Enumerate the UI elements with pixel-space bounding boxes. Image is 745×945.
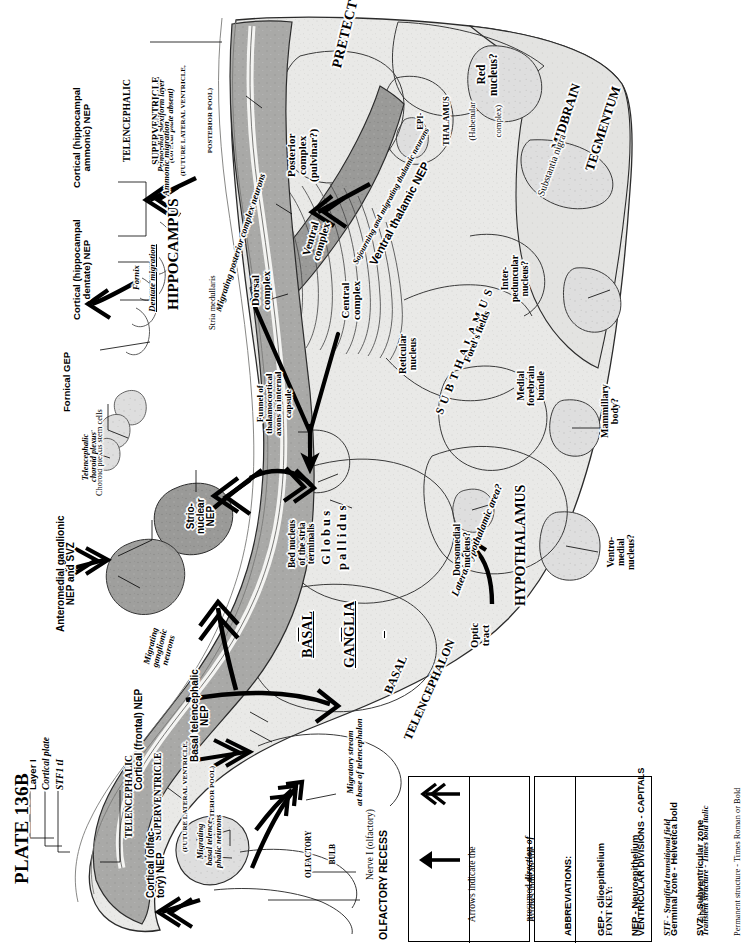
label-basal-telencephalic-nep: Basal telencephalic NEP [190,669,210,762]
label-central-complex: Central complex [340,281,362,320]
label-hypothalamus: HYPOTHALAMUS [514,485,528,606]
midbrain-line2: TEGMENTUM [583,85,623,173]
label-interpeduncular-nucleus: Inter- peduncular nucleus? [500,255,529,302]
label-midbrain-tegmentum: MIDBRAIN TEGMENTUM [520,64,648,181]
label-ventral-complex: Ventral complex [300,218,332,262]
label-fornix: Fornix [132,265,141,290]
fontkey-heading: FONT KEY: [604,768,615,936]
label-olfactory-recess: OLFACTORY RECESS [378,830,389,940]
label-hippocampus: HIPPOCAMPUS [166,198,181,310]
epi-line2: THALAMUS [442,96,451,146]
tsv-post-line3: (FUTURE LATERAL VENTRICLE, [180,65,187,176]
label-dentate-migration: Dentate migration [148,244,157,312]
label-globus-pallidus: G l o b u s p a l l i d u s [318,506,351,570]
bg-line2: GANGLIA [343,601,357,668]
solid-arrow-legend-icon [412,846,468,938]
fontkey-ventricular: VENTRICULAR DIVISIONS - CAPITALS [636,768,647,936]
label-cortical-hippocampal-ammonic-nep: Cortical (hippocampal ammonic) NEP [72,87,92,188]
label-anteromedial-ganglionic-nep-svz: Anteromedial ganglionic NEP and SVZ [56,515,76,632]
tsv-post-line1: TELENCEPHALIC [122,65,132,176]
label-dorsomedial-nucleus: Dorsomedial nucleus? [452,524,472,576]
label-sojourning-migrating-thalamic-neurons: Sojourning and migrating thalamic neuron… [352,127,431,266]
label-migrating-basal-telencephalic-neurons: Migrating basal telence- phalic neurons [196,815,222,868]
label-red-nucleus: Red nucleus? [476,53,499,96]
label-strio-nuclear-nep: Strio- nuclear NEP [186,498,217,534]
fontkey-transient: Transient structure - Times bold italic [701,768,711,936]
label-cortical-plate: Cortical plate [42,737,52,790]
label-funnel-thalamocortical-axons: Funnel of thalamocortical axons in inter… [256,371,293,436]
label-cortical-hippocampal-dentate-nep: Cortical (hippocampal dentate) NEP [72,219,92,320]
label-optic-tract: Optic tract [470,623,491,648]
label-ventromedial-nucleus: Ventro- medial nucleus? [606,534,635,570]
fontkey-germinal: Germinal zone - Helvetica bold [669,768,680,936]
ob-line2: BULB [329,830,337,878]
label-migrating-ganglionic-neurons: Migrating ganglionic neurons [142,626,178,671]
label-cortical-olfactory-nep: Cortical (olfac- tory) NEP [146,828,166,898]
fontkey-permanent: Permanent structure - Times Roman or Bol… [733,768,743,936]
label-fornical-gep: Fornical GEP [62,352,72,412]
label-olfactory-bulb: OLFACTORY BULB [290,830,352,878]
abbrev-heading: ABBREVIATIONS: [562,819,573,936]
label-bed-nucleus-stria-terminalis: Bed nucleus of the stria terminalis [288,520,317,568]
label-telencephalic-choroid-plexus: Telencephalic choroid plexus [82,432,99,482]
label-stf1-tl: STF1 tI [56,759,66,790]
label-migratory-stream: Migratory stream at base of telencephalo… [346,718,364,806]
tsv-ant-line1: TELENCEPHALIC [124,741,134,852]
epi-line3: (Habenular [468,96,477,146]
bg-line1: BASAL [301,601,315,668]
ob-line1: OLFACTORY [305,830,313,878]
label-reticular-nucleus: Reticular nucleus [398,334,418,374]
label-pretectum: PRETECTUM [330,0,367,69]
label-stria-medullaris: Stria medullaris [208,275,217,330]
label-mammillary-body: Mammillary body? [600,384,620,438]
epi-line4: complex) [494,96,503,146]
label-layer-i: Layer I [28,759,38,790]
label-medial-forebrain-bundle: Medial forebrain bundle [516,366,547,406]
font-key-list: FONT KEY: VENTRICULAR DIVISIONS - CAPITA… [582,768,745,936]
label-cortical-frontal-nep: Cortical (frontal) NEP [134,689,144,790]
label-nerve-i-olfactory: Nerve I (olfactory) [366,809,376,880]
label-posterior-complex: Posterior complex (pulvinar?) [286,129,320,182]
label-ammonic-migration: Ammonic migration [162,121,171,196]
tsv-post-line4: POSTERIOR POOL) [207,65,214,176]
label-dorsal-complex: Dorsal complex [250,271,272,310]
